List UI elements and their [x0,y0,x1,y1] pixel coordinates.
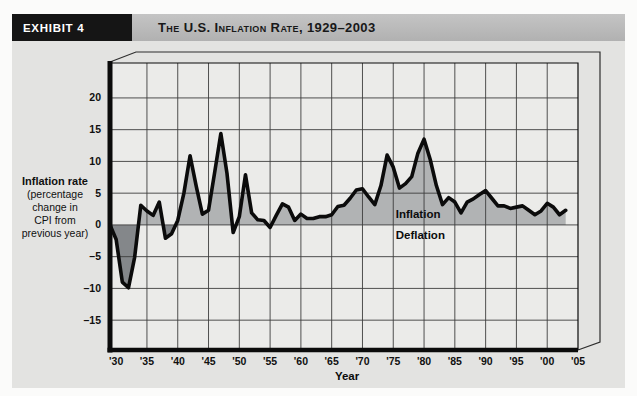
y-axis-label-line: CPI from [4,214,106,227]
exhibit-figure: EXHIBIT 4 The U.S. Inflation Rate, 1929–… [0,0,637,396]
x-tick-label: '05 [571,355,585,367]
y-axis-label: Inflation rate (percentage change in CPI… [4,175,106,240]
y-axis-label-line: (percentage [4,188,106,201]
x-tick-label: '75 [386,355,400,367]
y-tick-label: –10 [83,282,101,294]
x-tick-label: '50 [232,355,246,367]
y-tick-label: 10 [89,155,101,167]
deflation-annotation: Deflation [396,229,445,241]
y-tick-label: –15 [83,314,101,326]
x-tick-label: '60 [294,355,308,367]
x-tick-label: '90 [479,355,493,367]
y-axis-label-line: Inflation rate [4,175,106,188]
x-tick-label: '00 [540,355,554,367]
x-tick-label: '30 [109,355,123,367]
x-tick-label: '55 [263,355,277,367]
inflation-annotation: Inflation [396,208,441,220]
y-tick-label: 15 [89,123,101,135]
y-tick-label: –5 [89,250,101,262]
x-tick-label: '80 [417,355,431,367]
y-axis-label-line: previous year) [4,227,106,240]
x-tick-label: '70 [355,355,369,367]
x-tick-label: '85 [448,355,462,367]
y-axis-label-line: change in [4,201,106,214]
x-tick-label: '35 [140,355,154,367]
x-tick-label: '45 [201,355,215,367]
x-axis-title: Year [335,370,360,382]
x-tick-label: '40 [171,355,185,367]
x-tick-label: '95 [509,355,523,367]
y-tick-label: 20 [89,91,101,103]
x-tick-label: '65 [325,355,339,367]
